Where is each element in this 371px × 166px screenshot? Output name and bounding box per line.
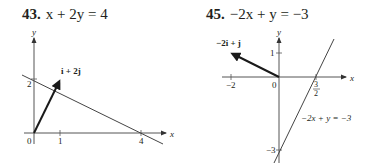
tick-label-x: −2 [226,80,236,90]
x-axis-label: x [349,73,354,83]
tick-label-x: 1 [58,136,63,146]
graph-45: x y −2 0 3 2 1 −3 −2i + j −2x + y = −3 [216,27,354,163]
equation-line [22,75,163,144]
line-label: −2x + y = −3 [301,113,352,123]
x-axis-label: x [169,129,174,139]
tick-label-x: 0 [27,136,32,146]
equation-line [274,39,334,163]
tick-label-fraction-den: 2 [314,89,318,98]
y-axis-label: y [276,27,281,37]
vector-label: i + 2j [61,66,81,76]
tick-label-x: 0 [272,80,277,90]
tick-label-y: 1 [270,48,275,58]
tick-label-y: −3 [266,145,276,155]
graphs: x y 0 1 4 2 i + 2j x y −2 0 3 2 1 −3 −2i… [0,0,371,166]
tick-label-y: 2 [27,79,32,89]
tick-label-x: 4 [139,136,144,146]
vector-label: −2i + j [216,38,241,48]
vector-arrow [34,82,59,133]
y-axis-label: y [31,27,36,37]
graph-43: x y 0 1 4 2 i + 2j [22,27,174,146]
tick-label-fraction-num: 3 [314,80,318,89]
